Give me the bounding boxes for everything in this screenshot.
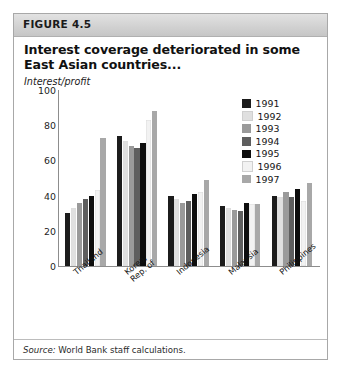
bar [71,208,76,266]
bar [174,199,179,266]
bar [140,143,145,266]
bar [168,196,173,266]
bar [134,148,139,266]
bar [283,192,288,266]
bar [180,203,185,266]
bar [220,206,225,266]
y-axis-tick-label: 40 [32,190,56,201]
bar [277,197,282,266]
y-axis-tick-label: 20 [32,225,56,236]
bar-group [215,90,267,266]
bar [129,146,134,266]
bar [272,196,277,266]
x-axis-label-cell: Malaysia [215,268,267,308]
plot-area: 020406080100 ThailandKorea,Rep. ofIndone… [24,90,320,308]
figure-header-band: FIGURE 4.5 [14,14,327,37]
bar [65,213,70,266]
bar-groups-container [60,90,318,266]
bar [152,111,157,266]
y-axis-tick-label: 60 [32,155,56,166]
y-axis-tick-label: 100 [32,85,56,96]
bar [232,210,237,266]
chart-title: Interest coverage deteriorated in some E… [24,42,320,72]
figure-card: FIGURE 4.5 Interest coverage deteriorate… [13,13,328,360]
x-axis-label-cell: Indonesia [163,268,215,308]
bar [100,138,105,266]
bar-group [163,90,215,266]
source-word: Source: [23,345,56,355]
y-axis-tick-label: 80 [32,120,56,131]
source-text: World Bank staff calculations. [56,345,186,355]
bar-group [266,90,318,266]
bar-group [60,90,112,266]
bar [226,208,231,266]
x-axis-label-cell: Thailand [60,268,112,308]
bar [123,141,128,266]
x-axis-label-cell: Philippines [266,268,318,308]
source-note: Source: World Bank staff calculations. [23,345,186,355]
y-axis-tick-labels: 020406080100 [24,90,56,266]
chart-axes: 020406080100 ThailandKorea,Rep. ofIndone… [24,90,320,308]
x-axis-label-cell: Korea,Rep. of [112,268,164,308]
x-axis-category-labels: ThailandKorea,Rep. ofIndonesiaMalaysiaPh… [60,268,318,308]
figure-number-label: FIGURE 4.5 [23,18,91,30]
bar-group [112,90,164,266]
bar [117,136,122,266]
bar [146,120,151,266]
bar [77,203,82,266]
y-axis-tick-label: 0 [32,261,56,272]
source-divider [14,339,327,340]
